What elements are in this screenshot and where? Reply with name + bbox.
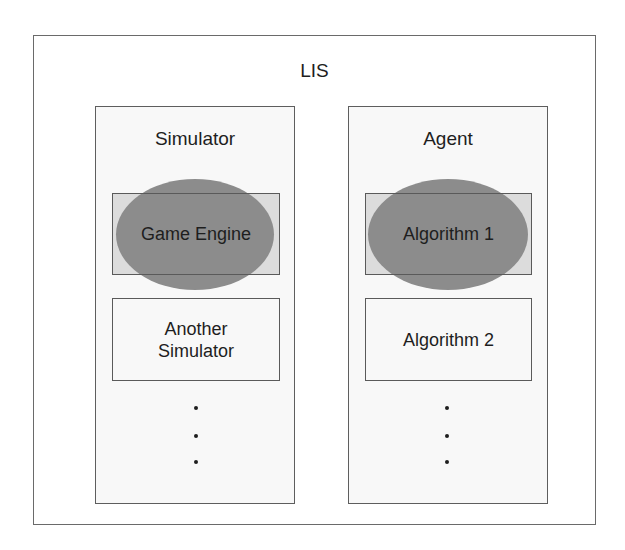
algorithm-2-label: Algorithm 2 — [403, 329, 494, 351]
algorithm-2-box: Algorithm 2 — [365, 298, 532, 381]
ellipsis-dot — [445, 434, 449, 438]
agent-column-title: Agent — [348, 128, 548, 150]
game-engine-label: Game Engine — [112, 193, 280, 275]
ellipsis-dot — [445, 460, 449, 464]
ellipsis-dot — [445, 406, 449, 410]
ellipsis-dot — [194, 434, 198, 438]
another-simulator-box: Another Simulator — [112, 298, 280, 381]
another-simulator-label-line1: Another — [164, 318, 227, 340]
simulator-column-title: Simulator — [95, 128, 295, 150]
algorithm-1-label: Algorithm 1 — [365, 193, 532, 275]
lis-title: LIS — [33, 60, 596, 82]
ellipsis-dot — [194, 460, 198, 464]
another-simulator-label-line2: Simulator — [158, 340, 234, 362]
ellipsis-dot — [194, 406, 198, 410]
